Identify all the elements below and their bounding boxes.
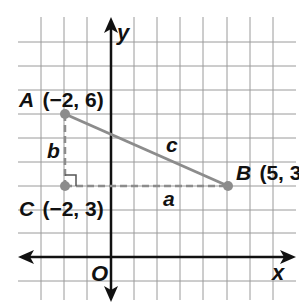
coordinate-plane-diagram: y x O A (−2, 6) B (5, 3) C (−2, 3) b a c <box>0 0 299 308</box>
point-b-coords: (5, 3) <box>259 161 299 184</box>
side-a-label: a <box>163 187 175 210</box>
point-a-name: A <box>18 88 34 111</box>
point-b-label: B (5, 3) <box>236 161 299 185</box>
side-c-hypotenuse <box>65 114 228 186</box>
side-b-label: b <box>47 139 60 162</box>
point-c <box>60 181 70 191</box>
point-b-name: B <box>236 161 251 184</box>
y-axis-label: y <box>116 20 131 45</box>
point-a-label: A (−2, 6) <box>18 88 104 112</box>
side-c-label: c <box>166 133 178 156</box>
point-c-label: C (−2, 3) <box>19 197 104 221</box>
point-c-coords: (−2, 3) <box>42 197 103 220</box>
point-b <box>223 181 233 191</box>
point-a-coords: (−2, 6) <box>42 88 103 111</box>
x-axis-label: x <box>271 260 285 285</box>
point-c-name: C <box>19 197 35 220</box>
origin-label: O <box>91 261 108 286</box>
